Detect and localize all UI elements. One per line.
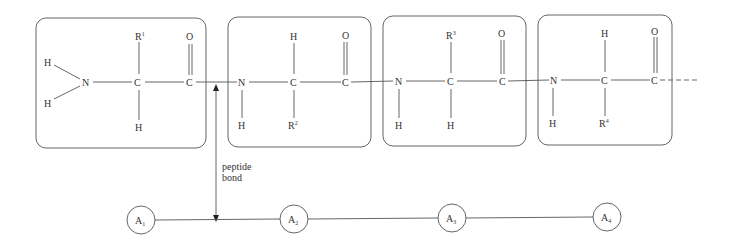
peptide-bond-label-line1: peptide bbox=[222, 161, 252, 172]
node-label-a3: A3 bbox=[446, 213, 456, 225]
side-chain-r3: R3 bbox=[446, 30, 456, 41]
peptide-diagram: H H N C R1 H C O N H C H R2 C O bbox=[0, 0, 735, 246]
peptide-bond-indicator: peptide bond bbox=[213, 84, 252, 222]
residue-4: N H C H R4 C O bbox=[549, 26, 658, 129]
nitrogen-3: N bbox=[395, 76, 402, 87]
side-chain-r2: R2 bbox=[288, 120, 298, 131]
carbonyl-carbon-4: C bbox=[651, 75, 658, 86]
alpha-h-4: H bbox=[601, 28, 608, 39]
residue-box-1 bbox=[36, 18, 206, 148]
alpha-h-3: H bbox=[447, 120, 454, 131]
arrow-down-icon bbox=[213, 215, 219, 222]
amine-h-bottom: H bbox=[44, 98, 51, 109]
side-chain-r4: R4 bbox=[599, 118, 609, 129]
alpha-carbon-4: C bbox=[601, 75, 608, 86]
alpha-carbon-3: C bbox=[447, 76, 454, 87]
peptide-bond-line-2 bbox=[351, 81, 393, 82]
node-label-a4: A4 bbox=[601, 212, 611, 224]
amide-h-3: H bbox=[395, 120, 402, 131]
residue-2: N H C H R2 C O bbox=[238, 30, 349, 131]
peptide-bond-line-3 bbox=[508, 80, 549, 81]
carbonyl-oxygen-4: O bbox=[651, 26, 658, 37]
node-label-a1: A1 bbox=[135, 215, 145, 227]
carbonyl-carbon-1: C bbox=[186, 77, 193, 88]
alpha-carbon-2: C bbox=[290, 77, 297, 88]
nitrogen-2: N bbox=[238, 77, 245, 88]
carbonyl-oxygen-1: O bbox=[186, 31, 193, 42]
alpha-h-1: H bbox=[135, 122, 142, 133]
arrow-up-icon bbox=[213, 84, 219, 91]
amide-h-4: H bbox=[549, 118, 556, 129]
carbonyl-carbon-3: C bbox=[499, 76, 506, 87]
alpha-h-2: H bbox=[290, 31, 297, 42]
amine-h-top: H bbox=[44, 57, 51, 68]
side-chain-r1: R1 bbox=[135, 31, 145, 42]
simplified-chain: A1 A2 A3 A4 bbox=[127, 203, 621, 234]
carbonyl-oxygen-3: O bbox=[498, 28, 505, 39]
carbonyl-carbon-2: C bbox=[342, 77, 349, 88]
carbonyl-oxygen-2: O bbox=[342, 30, 349, 41]
residue-1: H H N C R1 H C O bbox=[44, 31, 193, 133]
nitrogen-1: N bbox=[82, 77, 89, 88]
node-label-a2: A2 bbox=[288, 214, 298, 226]
alpha-carbon-1: C bbox=[134, 77, 141, 88]
peptide-bond-label-line2: bond bbox=[222, 172, 242, 183]
nitrogen-4: N bbox=[550, 75, 557, 86]
residue-3: N H C R3 H C O bbox=[395, 28, 506, 131]
amide-h-2: H bbox=[238, 120, 245, 131]
